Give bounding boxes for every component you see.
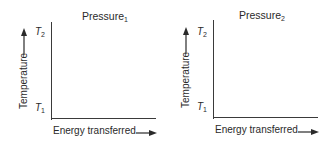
chart-pressure-1: Pressure1 T2 T1 Temperature Energy trans… xyxy=(0,0,167,145)
y-tick-t1: T1 xyxy=(197,101,207,113)
chart-pressure-2: Pressure2 T2 T1 Temperature Energy trans… xyxy=(165,0,332,145)
right-arrow-icon xyxy=(298,129,320,135)
up-arrow-icon xyxy=(21,28,27,56)
chart-title: Pressure2 xyxy=(239,9,285,22)
x-axis-label: Energy transferred xyxy=(215,124,298,135)
chart-title: Pressure1 xyxy=(82,10,128,23)
x-axis xyxy=(213,117,318,118)
y-tick-t2: T2 xyxy=(197,26,207,38)
y-axis-label: Temperature xyxy=(18,53,29,109)
x-axis xyxy=(51,118,156,119)
x-axis-label: Energy transferred xyxy=(53,125,136,136)
y-axis-label: Temperature xyxy=(180,52,191,108)
y-axis xyxy=(213,20,214,119)
up-arrow-icon xyxy=(183,27,189,55)
right-arrow-icon xyxy=(136,130,158,136)
y-tick-t1: T1 xyxy=(35,102,45,114)
y-tick-t2: T2 xyxy=(35,26,45,38)
y-axis xyxy=(51,22,52,120)
